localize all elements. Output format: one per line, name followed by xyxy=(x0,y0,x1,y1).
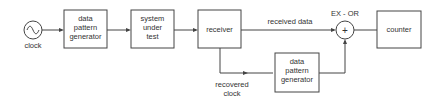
local-generator-label-line2: pattern xyxy=(285,66,308,75)
recovered-clock-label-line1: recovered xyxy=(215,80,248,89)
arrowhead-icon xyxy=(343,39,347,44)
data-pattern-generator-block: data pattern generator xyxy=(64,10,107,48)
generator-label-line1: data xyxy=(78,14,93,23)
generator-label-line2: pattern xyxy=(74,23,97,32)
clock-source: clock xyxy=(24,21,42,50)
system-under-test-block: system under test xyxy=(131,10,174,48)
block-diagram: clock data pattern generator system unde… xyxy=(0,0,444,105)
sut-label-line2: under xyxy=(143,23,163,32)
arrowhead-icon xyxy=(243,71,248,75)
sut-label-line1: system xyxy=(141,14,165,23)
arrowhead-icon xyxy=(331,28,336,32)
generator-label-line3: generator xyxy=(69,32,102,41)
local-generator-label-line3: generator xyxy=(281,75,314,84)
local-data-pattern-generator-block: data pattern generator xyxy=(275,53,319,92)
local-generator-label-line1: data xyxy=(290,57,305,66)
receiver-label: receiver xyxy=(206,25,233,34)
clock-label: clock xyxy=(24,41,41,50)
sut-label-line3: test xyxy=(146,32,159,41)
counter-block: counter xyxy=(377,11,421,48)
received-data-label: received data xyxy=(267,17,313,26)
receiver-block: receiver xyxy=(198,10,241,48)
exor-plus-symbol: + xyxy=(342,25,348,36)
arrowhead-icon xyxy=(59,28,64,32)
exor-gate: EX - OR + xyxy=(331,9,360,39)
wire-generator-to-exor xyxy=(319,41,345,73)
wire-recovered-clock xyxy=(220,48,273,73)
arrowhead-icon xyxy=(126,28,131,32)
counter-label: counter xyxy=(386,25,412,34)
arrowhead-icon xyxy=(193,28,198,32)
recovered-clock-label-line2: clock xyxy=(223,89,240,98)
exor-label: EX - OR xyxy=(331,9,360,18)
